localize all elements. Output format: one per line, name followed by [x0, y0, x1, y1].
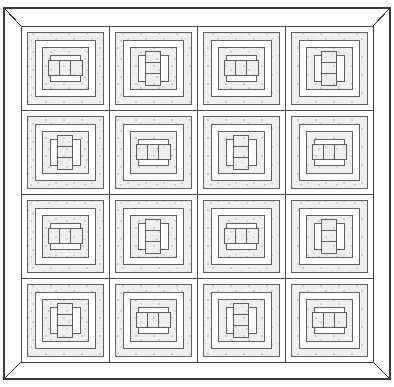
block-r2c4: [285, 110, 373, 194]
block-center-unit: [322, 219, 337, 253]
block-r1c1: [21, 26, 109, 110]
block-center-unit: [312, 145, 346, 160]
block-r3c4: [285, 194, 373, 278]
quilt-diagram-svg: [0, 0, 394, 387]
block-center-unit: [48, 61, 82, 76]
block-center-unit: [136, 313, 170, 328]
block-r4c4: [285, 278, 373, 362]
block-center-unit: [224, 229, 258, 244]
block-r1c2: [109, 26, 197, 110]
block-r3c1: [21, 194, 109, 278]
block-r4c1: [21, 278, 109, 362]
block-center-unit: [322, 51, 337, 85]
block-r2c1: [21, 110, 109, 194]
block-center-unit: [48, 229, 82, 244]
block-r2c3: [197, 110, 285, 194]
block-r1c3: [197, 26, 285, 110]
block-center-unit: [312, 313, 346, 328]
block-center-unit: [224, 61, 258, 76]
block-r4c3: [197, 278, 285, 362]
block-center-unit: [146, 51, 161, 85]
block-center-unit: [146, 219, 161, 253]
block-r3c3: [197, 194, 285, 278]
block-center-unit: [234, 303, 249, 337]
block-center-unit: [234, 135, 249, 169]
block-r2c2: [109, 110, 197, 194]
block-r3c2: [109, 194, 197, 278]
quilt-diagram-root: [0, 0, 394, 387]
block-center-unit: [136, 145, 170, 160]
block-r1c4: [285, 26, 373, 110]
block-center-unit: [58, 303, 73, 337]
block-r4c2: [109, 278, 197, 362]
block-center-unit: [58, 135, 73, 169]
quilt-blocks-group: [21, 26, 373, 362]
